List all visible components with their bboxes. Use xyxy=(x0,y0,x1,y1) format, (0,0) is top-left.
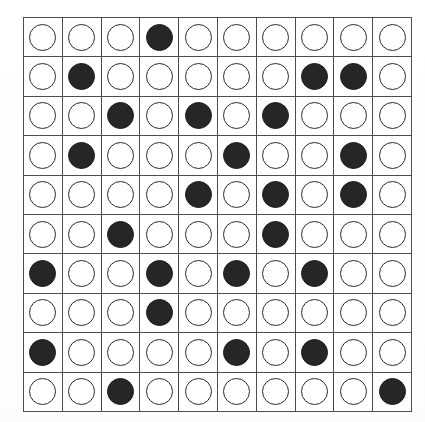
circle-outline-icon[interactable] xyxy=(379,221,406,248)
grid-cell[interactable] xyxy=(24,372,63,411)
grid-cell[interactable] xyxy=(217,18,256,57)
circle-outline-icon[interactable] xyxy=(262,260,289,287)
circle-outline-icon[interactable] xyxy=(185,260,212,287)
circle-outline-icon[interactable] xyxy=(107,142,134,169)
grid-cell[interactable] xyxy=(24,18,63,57)
grid-cell[interactable] xyxy=(295,96,334,135)
circle-filled-icon[interactable] xyxy=(223,142,250,169)
circle-outline-icon[interactable] xyxy=(262,63,289,90)
grid-cell[interactable] xyxy=(217,372,256,411)
circle-outline-icon[interactable] xyxy=(262,299,289,326)
circle-outline-icon[interactable] xyxy=(68,181,95,208)
grid-cell[interactable] xyxy=(140,333,179,372)
grid-cell[interactable] xyxy=(101,333,140,372)
circle-outline-icon[interactable] xyxy=(223,102,250,129)
grid-cell[interactable] xyxy=(256,214,295,253)
circle-outline-icon[interactable] xyxy=(223,181,250,208)
circle-filled-icon[interactable] xyxy=(107,378,134,405)
grid-cell[interactable] xyxy=(179,372,218,411)
circle-filled-icon[interactable] xyxy=(340,142,367,169)
circle-outline-icon[interactable] xyxy=(379,24,406,51)
circle-outline-icon[interactable] xyxy=(146,181,173,208)
grid-cell[interactable] xyxy=(256,96,295,135)
grid-cell[interactable] xyxy=(334,136,373,175)
grid-cell[interactable] xyxy=(256,333,295,372)
grid-cell[interactable] xyxy=(217,136,256,175)
grid-cell[interactable] xyxy=(140,372,179,411)
grid-cell[interactable] xyxy=(140,96,179,135)
grid-cell[interactable] xyxy=(217,214,256,253)
grid-cell[interactable] xyxy=(101,254,140,293)
grid-cell[interactable] xyxy=(217,254,256,293)
grid-cell[interactable] xyxy=(256,175,295,214)
grid-cell[interactable] xyxy=(62,293,101,332)
circle-filled-icon[interactable] xyxy=(340,181,367,208)
circle-outline-icon[interactable] xyxy=(301,299,328,326)
grid-cell[interactable] xyxy=(24,333,63,372)
grid-cell[interactable] xyxy=(101,136,140,175)
circle-filled-icon[interactable] xyxy=(340,63,367,90)
circle-filled-icon[interactable] xyxy=(223,260,250,287)
circle-outline-icon[interactable] xyxy=(146,378,173,405)
grid-cell[interactable] xyxy=(295,214,334,253)
grid-cell[interactable] xyxy=(373,175,412,214)
circle-outline-icon[interactable] xyxy=(29,181,56,208)
grid-cell[interactable] xyxy=(217,333,256,372)
circle-filled-icon[interactable] xyxy=(379,378,406,405)
circle-outline-icon[interactable] xyxy=(185,142,212,169)
circle-outline-icon[interactable] xyxy=(68,299,95,326)
grid-cell[interactable] xyxy=(334,372,373,411)
circle-outline-icon[interactable] xyxy=(29,63,56,90)
circle-outline-icon[interactable] xyxy=(340,102,367,129)
grid-cell[interactable] xyxy=(334,333,373,372)
circle-filled-icon[interactable] xyxy=(68,142,95,169)
circle-outline-icon[interactable] xyxy=(301,221,328,248)
circle-outline-icon[interactable] xyxy=(223,221,250,248)
circle-filled-icon[interactable] xyxy=(301,63,328,90)
circle-outline-icon[interactable] xyxy=(301,378,328,405)
grid-cell[interactable] xyxy=(295,333,334,372)
grid-cell[interactable] xyxy=(101,372,140,411)
circle-outline-icon[interactable] xyxy=(107,63,134,90)
circle-filled-icon[interactable] xyxy=(262,181,289,208)
grid-cell[interactable] xyxy=(373,96,412,135)
grid-cell[interactable] xyxy=(101,96,140,135)
grid-cell[interactable] xyxy=(256,372,295,411)
grid-cell[interactable] xyxy=(24,136,63,175)
grid-cell[interactable] xyxy=(101,57,140,96)
circle-outline-icon[interactable] xyxy=(379,299,406,326)
grid-cell[interactable] xyxy=(373,136,412,175)
circle-outline-icon[interactable] xyxy=(340,260,367,287)
grid-cell[interactable] xyxy=(179,57,218,96)
grid-cell[interactable] xyxy=(334,57,373,96)
circle-filled-icon[interactable] xyxy=(146,299,173,326)
grid-cell[interactable] xyxy=(334,18,373,57)
grid-cell[interactable] xyxy=(179,136,218,175)
grid-cell[interactable] xyxy=(217,96,256,135)
circle-outline-icon[interactable] xyxy=(107,299,134,326)
circle-outline-icon[interactable] xyxy=(68,221,95,248)
circle-outline-icon[interactable] xyxy=(379,260,406,287)
circle-outline-icon[interactable] xyxy=(340,24,367,51)
grid-cell[interactable] xyxy=(334,254,373,293)
circle-filled-icon[interactable] xyxy=(185,181,212,208)
circle-outline-icon[interactable] xyxy=(340,378,367,405)
grid-cell[interactable] xyxy=(140,18,179,57)
circle-filled-icon[interactable] xyxy=(301,260,328,287)
grid-cell[interactable] xyxy=(334,96,373,135)
grid-cell[interactable] xyxy=(295,136,334,175)
circle-outline-icon[interactable] xyxy=(262,142,289,169)
circle-outline-icon[interactable] xyxy=(146,221,173,248)
grid-cell[interactable] xyxy=(140,214,179,253)
circle-filled-icon[interactable] xyxy=(68,63,95,90)
grid-cell[interactable] xyxy=(256,254,295,293)
circle-outline-icon[interactable] xyxy=(262,378,289,405)
circle-outline-icon[interactable] xyxy=(29,24,56,51)
grid-cell[interactable] xyxy=(24,214,63,253)
grid-cell[interactable] xyxy=(217,57,256,96)
circle-outline-icon[interactable] xyxy=(146,339,173,366)
circle-outline-icon[interactable] xyxy=(107,260,134,287)
circle-outline-icon[interactable] xyxy=(68,24,95,51)
grid-cell[interactable] xyxy=(24,293,63,332)
grid-cell[interactable] xyxy=(334,293,373,332)
